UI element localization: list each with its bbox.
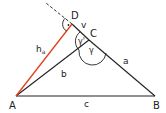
right-angle-dot — [68, 24, 70, 26]
label-side-c: c — [84, 99, 89, 109]
label-side-b: b — [61, 69, 67, 79]
label-point-c: C — [90, 28, 97, 39]
side-a — [89, 40, 155, 96]
extension-dashed-line — [46, 3, 72, 24]
label-side-a: a — [123, 56, 129, 66]
label-point-a: A — [9, 100, 16, 111]
label-point-b: B — [153, 100, 160, 111]
label-altitude-subscript: a — [42, 48, 46, 55]
label-altitude-h: ha — [36, 44, 46, 55]
label-angle-gamma-prime: γ' — [78, 37, 85, 46]
right-angle-arc — [63, 18, 67, 31]
label-angle-gamma: γ — [89, 46, 94, 55]
label-side-v: v — [81, 20, 87, 30]
label-point-d: D — [71, 10, 79, 21]
triangle-diagram: D C A B v a b c ha γ' γ — [0, 0, 166, 113]
